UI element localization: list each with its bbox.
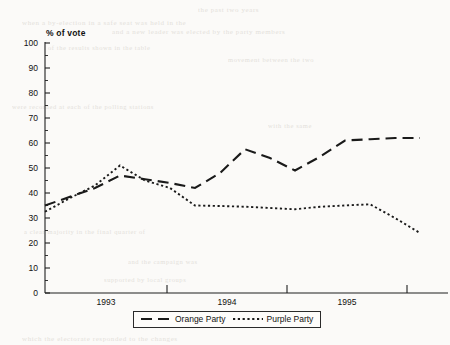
series-line-purple-party xyxy=(45,166,420,234)
series-line-orange-party xyxy=(45,138,420,206)
chart-legend: Orange PartyPurple Party xyxy=(133,311,321,328)
legend-label: Orange Party xyxy=(175,314,226,324)
legend-label: Purple Party xyxy=(267,314,314,324)
chart-plot-area xyxy=(0,0,450,345)
legend-item-orange-party: Orange Party xyxy=(141,314,226,324)
legend-swatch-dotted xyxy=(233,315,263,323)
chart-page: the past two yearswhen a by-election in … xyxy=(0,0,450,345)
legend-item-purple-party: Purple Party xyxy=(233,314,314,324)
legend-swatch-long-dash xyxy=(141,315,171,323)
